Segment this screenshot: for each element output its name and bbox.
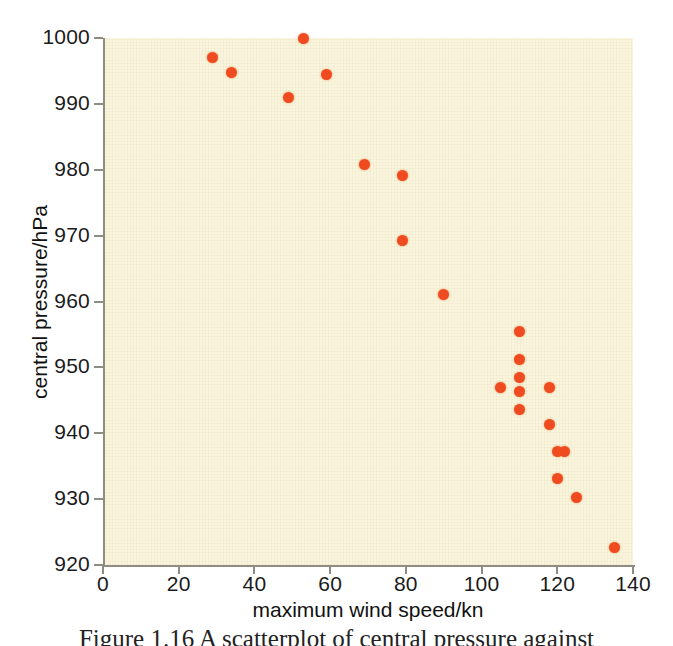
x-axis-label: maximum wind speed/kn [103,598,633,622]
x-tick-label: 20 [139,572,219,596]
x-tick-label-wrap: 120 [517,572,597,573]
data-point [552,473,563,484]
y-tick-label-wrap: 930 [0,486,90,487]
x-tick-label: 0 [63,572,143,596]
scatter-chart-figure: 9209309409509609709809901000 02040608010… [0,0,673,646]
x-tick-label-wrap: 140 [593,572,673,573]
x-tick-label-wrap: 40 [214,572,294,573]
data-point [397,170,408,181]
data-point [298,33,309,44]
data-point [514,354,525,365]
y-tick-mark [94,301,103,303]
data-point [226,67,237,78]
data-point [397,235,408,246]
y-tick-mark [94,37,103,39]
y-tick-mark [94,498,103,500]
x-tick-label: 120 [517,572,597,596]
x-tick-label: 100 [442,572,522,596]
y-tick-label-wrap: 1000 [0,25,90,26]
y-tick-mark [94,432,103,434]
y-tick-label: 990 [4,91,90,115]
y-tick-mark [94,103,103,105]
x-tick-label-wrap: 20 [139,572,219,573]
x-tick-label-wrap: 100 [442,572,522,573]
data-point [495,382,506,393]
x-tick-label-wrap: 60 [290,572,370,573]
data-point [609,542,620,553]
x-tick-label: 60 [290,572,370,596]
y-tick-mark [94,235,103,237]
y-tick-mark [94,169,103,171]
y-tick-mark [94,366,103,368]
x-tick-label-wrap: 80 [366,572,446,573]
x-tick-label-wrap: 0 [63,572,143,573]
data-point [571,492,582,503]
data-point [544,382,555,393]
figure-caption-partial: Figure 1.16 A scatterplot of central pre… [0,625,673,646]
data-point [359,159,370,170]
plot-panel [103,38,633,565]
y-axis-label: central pressure/hPa [28,137,52,467]
x-tick-label: 140 [593,572,673,596]
data-point [544,419,555,430]
data-point [514,404,525,415]
x-tick-label: 80 [366,572,446,596]
data-point [514,386,525,397]
data-point [514,326,525,337]
y-tick-label-wrap: 990 [0,91,90,92]
y-tick-label: 930 [4,486,90,510]
y-tick-label-wrap: 920 [0,552,90,553]
y-tick-label: 1000 [4,25,90,49]
x-tick-label: 40 [214,572,294,596]
